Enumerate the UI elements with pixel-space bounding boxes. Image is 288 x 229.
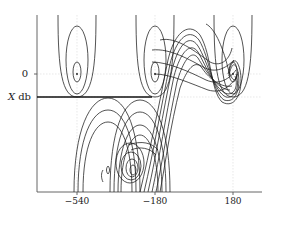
lower-arches [74, 98, 170, 192]
x-label-180: 180 [224, 196, 241, 206]
center-point [76, 73, 78, 75]
axes [34, 15, 262, 195]
small-loop [107, 166, 110, 174]
nichols-chart: 0 X db −540 −180 180 [0, 0, 288, 229]
x-tick-labels: −540 −180 180 [65, 196, 242, 206]
y-tick-labels: 0 X db [7, 68, 31, 102]
x-label-m180: −180 [143, 196, 168, 206]
y-label-xdb-unit: db [15, 91, 31, 102]
x-label-m540: −540 [65, 196, 90, 206]
small-loop [102, 170, 104, 182]
trajectory [152, 48, 236, 192]
y-label-xdb: X db [7, 91, 31, 102]
trajectory [160, 65, 232, 192]
arch [74, 98, 140, 192]
trajectory [144, 35, 239, 192]
y-label-0: 0 [22, 68, 28, 79]
